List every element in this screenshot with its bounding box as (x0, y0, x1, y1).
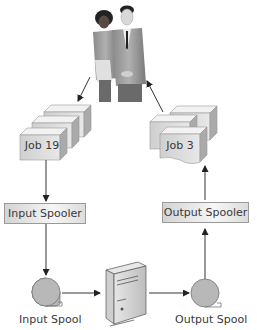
input-spooler-box: Input Spooler (4, 203, 86, 224)
job-stack-output (150, 106, 217, 164)
input-spool-label: Input Spool (19, 313, 81, 326)
job-3-label: Job 3 (162, 139, 198, 152)
diagram-canvas (0, 0, 257, 330)
arrow-users-to-job19 (78, 77, 90, 101)
input-spool-icon (32, 278, 62, 306)
output-spool-label: Output Spool (175, 313, 247, 326)
arrow-job3-to-users (147, 81, 163, 112)
output-spooler-box: Output Spooler (162, 202, 249, 223)
computer-icon (106, 262, 146, 326)
job-19-label: Job 19 (24, 139, 60, 152)
output-spool-icon (191, 279, 221, 307)
users-illustration (93, 6, 146, 103)
